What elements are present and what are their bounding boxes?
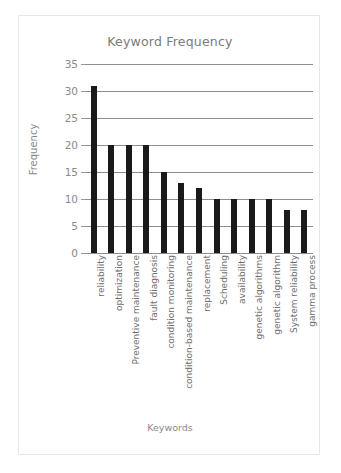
y-tick-mark-0 [81, 253, 85, 254]
y-tick-label-10: 10 [65, 193, 78, 205]
bar [249, 199, 255, 253]
y-tick-label-30: 30 [65, 85, 78, 97]
bar [266, 199, 272, 253]
x-category-label: gamma process [308, 255, 317, 327]
y-tick-label-20: 20 [65, 139, 78, 151]
bar-series [85, 64, 313, 253]
y-tick-label-0: 0 [71, 247, 78, 259]
bar [301, 210, 307, 253]
bar [143, 145, 149, 253]
x-category-label: replacement [203, 255, 212, 312]
gridline-0 [85, 253, 313, 254]
y-tick-label-15: 15 [65, 166, 78, 178]
bar [214, 199, 220, 253]
x-category-label: Preventive maintenance [132, 255, 141, 365]
chart-frame: Keyword Frequency Frequency 051015202530… [18, 15, 320, 455]
y-tick-label-35: 35 [65, 58, 78, 70]
x-category-label: reliability [97, 255, 106, 297]
bar [108, 145, 114, 253]
y-tick-label-5: 5 [71, 220, 78, 232]
bar [178, 183, 184, 253]
x-axis-label: Keywords [19, 422, 321, 433]
chart-title: Keyword Frequency [19, 34, 321, 49]
bar [196, 188, 202, 253]
x-category-label: condition-based maintenance [185, 255, 194, 389]
x-axis-category-labels: reliabilityoptimizationPreventive mainte… [85, 255, 313, 420]
bar [126, 145, 132, 253]
y-tick-label-25: 25 [65, 112, 78, 124]
x-category-label: System reliability [290, 255, 299, 333]
x-category-label: Scheduling [220, 255, 229, 305]
bar [91, 86, 97, 253]
bar [161, 172, 167, 253]
plot-area: 05101520253035 [85, 64, 313, 253]
bar [231, 199, 237, 253]
x-category-label: optimization [115, 255, 124, 311]
bar [284, 210, 290, 253]
x-category-label: fault diagnosis [150, 255, 159, 321]
x-category-label: availability [238, 255, 247, 304]
y-axis-label: Frequency [28, 110, 39, 190]
x-category-label: condition monitoring [167, 255, 176, 349]
x-category-label: genetic algorithms [255, 255, 264, 339]
x-category-label: genetic algorithm [273, 255, 282, 335]
